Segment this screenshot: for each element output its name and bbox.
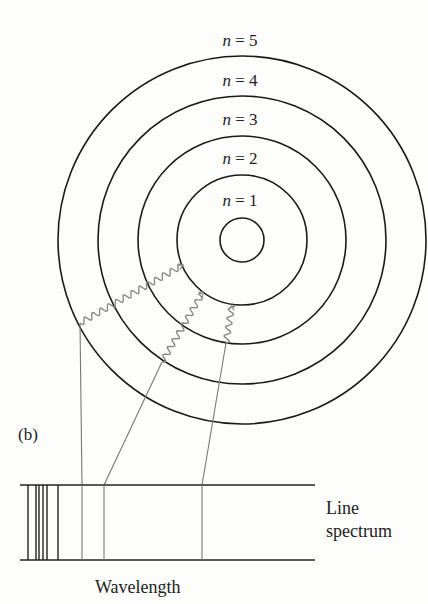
line-spectrum (20, 485, 315, 560)
orbit-labels: n = 5 n = 4 n = 3 n = 2 n = 1 (222, 31, 258, 210)
photon-wave (80, 264, 184, 325)
orbit-circle-n3 (98, 96, 386, 384)
orbit-label-n1: n = 1 (222, 191, 257, 210)
nucleus-circle (220, 218, 264, 262)
spectrum-label-line1: Line (326, 498, 359, 518)
transition-line (202, 343, 226, 485)
photon-wave (224, 305, 235, 343)
orbit-label-n5: n = 5 (222, 31, 257, 50)
orbit-label-n2: n = 2 (222, 149, 257, 168)
transition-line (104, 362, 162, 485)
spectrum-label-line2: spectrum (326, 521, 392, 541)
panel-label: (b) (18, 425, 38, 444)
spectral-lines-dark (28, 485, 58, 560)
wavelength-axis-label: Wavelength (95, 577, 181, 597)
transition-line (80, 323, 82, 485)
transition-connectors (80, 323, 226, 485)
orbit-label-n4: n = 4 (222, 71, 258, 90)
bohr-model-diagram: n = 5 n = 4 n = 3 n = 2 n = 1 (b) Line s… (0, 0, 428, 604)
orbit-label-n3: n = 3 (222, 110, 257, 129)
spectral-lines-gray (82, 485, 202, 560)
photon-wave (162, 292, 203, 362)
